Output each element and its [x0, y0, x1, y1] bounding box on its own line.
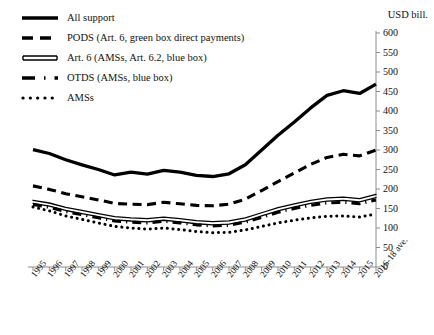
y-axis-tick-label: 350 — [383, 125, 398, 136]
data-series — [33, 84, 376, 233]
plot-area — [0, 0, 434, 335]
y-axis-tick-label: 400 — [383, 105, 398, 116]
series-line — [33, 84, 376, 176]
y-axis-tick-label: 600 — [383, 27, 398, 38]
y-axis-tick-label: 250 — [383, 164, 398, 175]
y-axis-tick-label: 150 — [383, 203, 398, 214]
y-axis-tick-label: 300 — [383, 144, 398, 155]
series-line — [33, 150, 376, 206]
axes — [28, 31, 380, 271]
y-axis-tick-label: 100 — [383, 222, 398, 233]
y-axis-tick-label: 450 — [383, 86, 398, 97]
y-axis-tick-label: 550 — [383, 47, 398, 58]
chart-container: All support PODS (Art. 6, green box dire… — [0, 0, 434, 335]
y-axis-tick-label: 200 — [383, 183, 398, 194]
series-line — [33, 200, 376, 226]
series-2 — [33, 194, 376, 225]
y-axis-tick-label: 500 — [383, 66, 398, 77]
